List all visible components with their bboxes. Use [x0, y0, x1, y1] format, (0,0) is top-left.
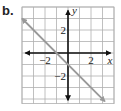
x-tick-label: −2	[39, 54, 51, 66]
coordinate-plane: −222−2xy	[0, 0, 121, 111]
y-tick-label: 2	[61, 24, 67, 36]
y-axis-label: y	[71, 4, 77, 16]
x-axis-label: x	[107, 54, 113, 66]
tick-labels: −222−2xy	[39, 4, 112, 82]
x-tick-label: 2	[88, 54, 94, 66]
y-tick-label: −2	[54, 70, 66, 82]
